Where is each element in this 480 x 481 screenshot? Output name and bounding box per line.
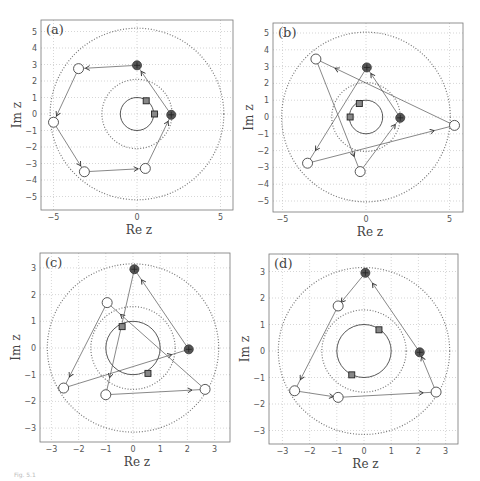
open-circle-marker xyxy=(303,158,313,168)
x-tick-label: −2 xyxy=(73,445,85,454)
x-tick-label: 2 xyxy=(185,445,190,454)
y-tick-label: 5 xyxy=(32,28,37,37)
y-tick-label: 0 xyxy=(260,347,265,356)
y-tick-label: −5 xyxy=(25,193,37,202)
x-tick-label: −3 xyxy=(277,447,289,456)
square-marker xyxy=(376,327,382,333)
y-tick-label: 0 xyxy=(32,110,37,119)
open-circle-marker xyxy=(450,120,460,130)
y-axis-label: Im z xyxy=(9,334,23,360)
y-tick-label: 2 xyxy=(264,79,269,88)
open-circle-marker xyxy=(59,383,69,393)
x-tick-label: −5 xyxy=(277,215,289,224)
y-tick-label: −3 xyxy=(253,427,265,436)
open-circle-marker xyxy=(79,167,89,177)
y-tick-label: −1 xyxy=(253,374,265,383)
y-tick-label: −4 xyxy=(257,180,269,189)
y-tick-label: −5 xyxy=(257,197,269,206)
panel-label: (d) xyxy=(274,256,292,271)
panel-b: −505−5−4−3−2−1012345Re zIm z(b) xyxy=(242,23,463,239)
x-tick-label: 0 xyxy=(130,445,135,454)
y-tick-label: −3 xyxy=(24,424,36,433)
y-tick-label: −1 xyxy=(257,130,269,139)
y-tick-label: 5 xyxy=(264,29,269,38)
open-circle-marker xyxy=(101,390,111,400)
y-tick-label: 1 xyxy=(260,321,265,330)
y-tick-label: 3 xyxy=(264,63,269,72)
y-axis-label: Im z xyxy=(10,102,24,128)
x-tick-label: 5 xyxy=(218,213,223,222)
square-marker xyxy=(347,114,353,120)
panel-label: (b) xyxy=(278,25,296,40)
x-tick-label: −5 xyxy=(48,213,60,222)
x-tick-label: 2 xyxy=(416,447,421,456)
y-tick-label: 3 xyxy=(260,268,265,277)
x-tick-label: −1 xyxy=(331,447,343,456)
panel-label: (a) xyxy=(46,22,64,37)
panel-c: −3−2−10123−3−2−10123Re zIm z(c) xyxy=(9,253,230,469)
path-segment xyxy=(84,168,145,171)
open-circle-marker xyxy=(333,301,343,311)
panel-d: −3−2−10123−3−2−10123Re zIm z(d) xyxy=(238,254,458,471)
y-tick-label: −2 xyxy=(253,400,265,409)
y-tick-label: −3 xyxy=(257,163,269,172)
x-tick-label: −1 xyxy=(100,445,112,454)
y-tick-label: 0 xyxy=(31,344,36,353)
square-marker xyxy=(145,370,151,376)
axes-box xyxy=(269,254,458,444)
x-tick-label: 3 xyxy=(212,445,217,454)
x-axis-label: Re z xyxy=(126,223,152,237)
open-circle-marker xyxy=(74,64,84,74)
y-tick-label: 2 xyxy=(31,291,36,300)
x-tick-label: 0 xyxy=(361,447,366,456)
figure-caption: Fig. 5.1 xyxy=(14,471,36,479)
axes-box xyxy=(273,23,463,212)
square-marker xyxy=(143,98,149,104)
path-segment xyxy=(79,65,137,68)
y-tick-label: −2 xyxy=(24,397,36,406)
y-tick-label: −1 xyxy=(25,127,37,136)
x-tick-label: 1 xyxy=(158,445,163,454)
open-circle-marker xyxy=(333,392,343,402)
open-circle-marker xyxy=(431,387,441,397)
panel-a: −505−5−4−3−2−1012345Re zIm z(a) xyxy=(10,20,233,237)
axes-box xyxy=(40,253,230,442)
y-tick-label: 1 xyxy=(32,94,37,103)
path-segment xyxy=(145,115,171,169)
y-tick-label: −4 xyxy=(25,176,37,185)
path-segment xyxy=(295,391,339,398)
y-tick-label: −2 xyxy=(25,143,37,152)
y-tick-label: −3 xyxy=(25,160,37,169)
y-tick-label: 4 xyxy=(32,44,37,53)
x-tick-label: −3 xyxy=(46,445,58,454)
y-tick-label: 3 xyxy=(31,264,36,273)
panel-label: (c) xyxy=(45,255,62,270)
y-axis-label: Im z xyxy=(238,336,252,362)
open-circle-marker xyxy=(290,386,300,396)
x-axis-label: Re z xyxy=(124,455,150,469)
x-axis-label: Re z xyxy=(357,225,383,239)
y-tick-label: −2 xyxy=(257,147,269,156)
open-circle-marker xyxy=(102,298,112,308)
open-circle-marker xyxy=(311,54,321,64)
x-tick-label: 5 xyxy=(447,215,452,224)
x-tick-label: 3 xyxy=(443,447,448,456)
x-axis-label: Re z xyxy=(352,457,378,471)
y-tick-label: 0 xyxy=(264,113,269,122)
axes-box xyxy=(41,20,233,210)
open-circle-marker xyxy=(355,167,365,177)
x-tick-label: 1 xyxy=(389,447,394,456)
x-tick-label: −2 xyxy=(304,447,316,456)
y-tick-label: 2 xyxy=(260,294,265,303)
y-tick-label: −1 xyxy=(24,371,36,380)
path-segment xyxy=(64,349,189,388)
square-marker xyxy=(119,324,125,330)
square-marker xyxy=(152,111,158,117)
x-tick-label: 0 xyxy=(134,213,139,222)
y-tick-label: 2 xyxy=(32,77,37,86)
open-circle-marker xyxy=(140,163,150,173)
square-marker xyxy=(356,101,362,107)
x-tick-label: 0 xyxy=(363,215,368,224)
y-axis-label: Im z xyxy=(242,104,256,130)
open-circle-marker xyxy=(49,117,59,127)
